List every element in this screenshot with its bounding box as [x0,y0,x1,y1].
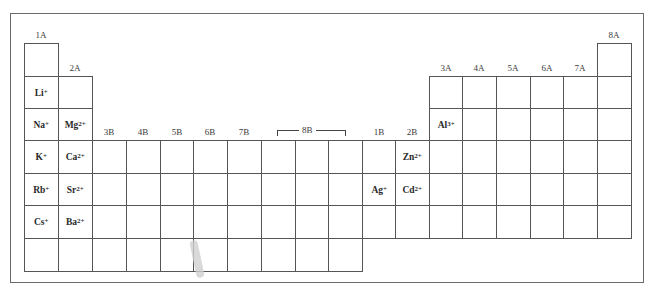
empty-element-cell [429,76,464,110]
empty-element-cell [295,205,330,239]
empty-element-cell [530,205,565,239]
empty-element-cell [530,76,565,110]
ion-symbol: Ba [66,217,77,227]
empty-element-cell [429,140,464,174]
empty-element-cell [597,76,632,110]
empty-element-cell [429,173,464,207]
empty-element-cell [193,140,228,174]
element-cell-na: Na+ [24,108,59,142]
element-cell-mg: Mg2+ [58,108,93,142]
empty-element-cell [193,205,228,239]
empty-element-cell [530,173,565,207]
empty-element-cell [160,140,195,174]
empty-element-cell [563,140,598,174]
group-label-1b: 1B [362,127,396,137]
empty-element-cell [193,173,228,207]
empty-element-cell [496,205,531,239]
element-cell-sr: Sr2+ [58,173,93,207]
empty-element-cell [597,43,632,77]
empty-element-cell [530,108,565,142]
group-label-2a: 2A [58,63,92,73]
empty-element-cell [126,173,161,207]
element-cell-zn: Zn2+ [395,140,430,174]
empty-element-cell [92,140,127,174]
empty-element-cell [429,205,464,239]
empty-element-cell [328,140,363,174]
element-cell-ag: Ag+ [362,173,397,207]
group-label-7a: 7A [563,63,597,73]
empty-element-cell [58,238,93,272]
empty-element-cell [126,238,161,272]
empty-element-cell [295,238,330,272]
ion-symbol: Ca [66,152,78,162]
element-cell-ba: Ba2+ [58,205,93,239]
empty-element-cell [597,108,632,142]
empty-element-cell [597,205,632,239]
empty-element-cell [597,140,632,174]
empty-element-cell [261,238,296,272]
empty-element-cell [24,43,59,77]
ion-symbol: Rb [33,185,45,195]
group-label-4a: 4A [462,63,496,73]
group-label-7b: 7B [227,127,261,137]
group-label-2b: 2B [395,127,429,137]
empty-element-cell [160,173,195,207]
empty-element-cell [563,76,598,110]
empty-element-cell [563,108,598,142]
empty-element-cell [227,238,262,272]
empty-element-cell [462,140,497,174]
empty-element-cell [92,205,127,239]
ion-symbol: Ag [371,185,383,195]
element-cell-rb: Rb+ [24,173,59,207]
ion-symbol: Cs [34,217,45,227]
empty-element-cell [126,205,161,239]
empty-element-cell [462,108,497,142]
element-cell-cd: Cd2+ [395,173,430,207]
empty-element-cell [563,173,598,207]
empty-element-cell [92,173,127,207]
empty-element-cell [227,205,262,239]
group-label-3b: 3B [92,127,126,137]
empty-element-cell [261,140,296,174]
element-cell-li: Li+ [24,76,59,110]
group-label-3a: 3A [429,63,463,73]
empty-element-cell [24,238,59,272]
empty-element-cell [462,173,497,207]
ion-symbol: Na [33,120,45,130]
empty-element-cell [563,205,598,239]
empty-element-cell [530,140,565,174]
ion-symbol: Mg [65,120,79,130]
empty-element-cell [362,140,397,174]
group-label-5b: 5B [160,127,194,137]
empty-element-cell [328,238,363,272]
group-label-1a: 1A [24,30,58,40]
element-cell-cs: Cs+ [24,205,59,239]
empty-element-cell [295,140,330,174]
empty-element-cell [496,140,531,174]
element-cell-ca: Ca2+ [58,140,93,174]
empty-element-cell [227,173,262,207]
empty-element-cell [496,173,531,207]
empty-element-cell [462,205,497,239]
group-label-6b: 6B [193,127,227,137]
empty-element-cell [261,205,296,239]
empty-element-cell [462,76,497,110]
ion-symbol: Li [35,88,44,98]
empty-element-cell [328,205,363,239]
element-cell-al: Al3+ [429,108,464,142]
empty-element-cell [227,140,262,174]
empty-element-cell [362,205,397,239]
empty-element-cell [92,238,127,272]
ion-symbol: Cd [402,185,414,195]
ion-symbol: Zn [403,152,415,162]
empty-element-cell [261,173,296,207]
empty-element-cell [58,76,93,110]
empty-element-cell [295,173,330,207]
group-label-8b: 8B [299,125,316,135]
group-label-4b: 4B [126,127,160,137]
ion-symbol: K [36,152,43,162]
empty-element-cell [496,108,531,142]
empty-element-cell [160,205,195,239]
empty-element-cell [395,205,430,239]
empty-element-cell [496,76,531,110]
